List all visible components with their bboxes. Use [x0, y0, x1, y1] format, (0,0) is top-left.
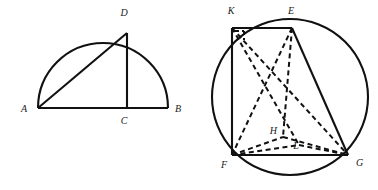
vertex-label-h: H	[269, 125, 278, 136]
vertex-label-l: L	[292, 140, 299, 151]
vertex-label-e: E	[287, 5, 294, 16]
vertex-label-c: C	[121, 115, 128, 126]
vertex-label-g: G	[356, 157, 363, 168]
vertex-label-a: A	[20, 103, 28, 114]
segment-EF	[232, 28, 292, 155]
circle-rectangle-diagram: KEFGHL	[212, 5, 368, 175]
vertex-label-d: D	[119, 7, 128, 18]
segment-KL	[232, 28, 299, 145]
geometry-figure-canvas: ABCDKEFGHL	[0, 0, 378, 190]
segment-LG	[299, 145, 348, 155]
chord-AD	[38, 33, 127, 108]
circumscribed-circle	[212, 19, 368, 175]
vertex-label-f: F	[220, 159, 228, 170]
vertex-label-b: B	[175, 103, 181, 114]
semicircle-diagram: ABCD	[20, 7, 181, 126]
vertex-label-k: K	[227, 5, 236, 16]
edge-EG	[292, 28, 348, 155]
segment-FL	[232, 145, 299, 155]
